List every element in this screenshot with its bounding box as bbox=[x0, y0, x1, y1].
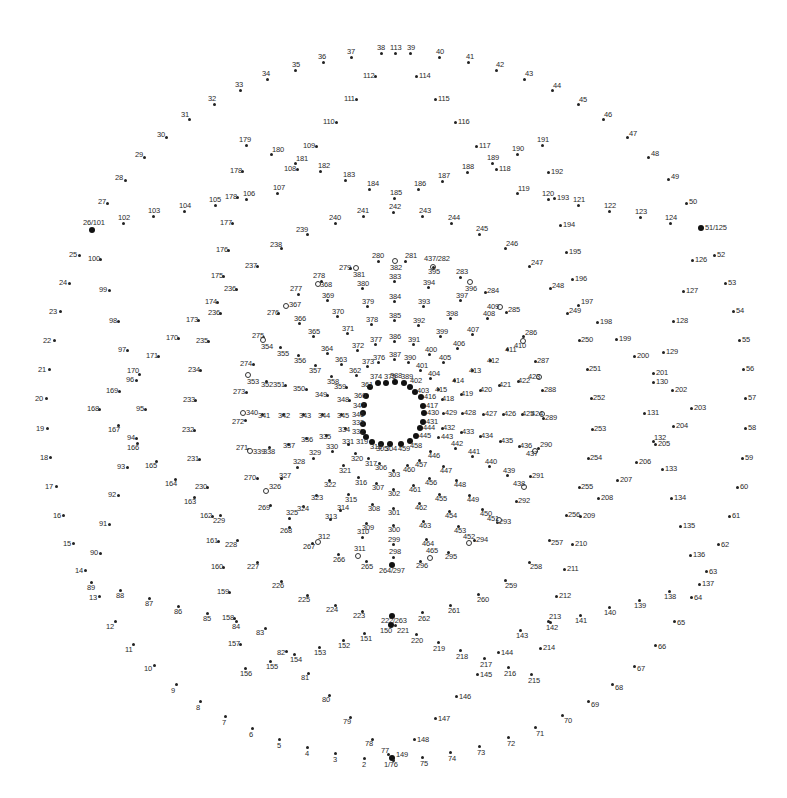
point-number-label: 365 bbox=[308, 328, 320, 336]
point-number-label: 17 bbox=[45, 483, 53, 491]
point-number-label: 337 bbox=[283, 442, 295, 450]
point-number-label: 157 bbox=[228, 640, 240, 648]
point-number-label: 110 bbox=[323, 118, 334, 126]
point-number-label: 37 bbox=[347, 48, 355, 56]
point-number-label: 158 bbox=[222, 614, 234, 622]
point-number-label: 99 bbox=[99, 286, 107, 294]
point-number-label: 170 bbox=[166, 334, 178, 342]
point-number-label: 437 bbox=[526, 450, 538, 458]
point-number-label: 5 bbox=[277, 742, 281, 750]
point-number-label: 177 bbox=[220, 219, 232, 227]
point-number-label: 92 bbox=[108, 491, 116, 499]
point-number-label: 307 bbox=[372, 484, 384, 492]
point-number-label: 359 bbox=[334, 383, 346, 391]
point-number-label: 146 bbox=[459, 693, 471, 701]
point-number-label: 184 bbox=[367, 180, 379, 188]
point-number-label: 303 bbox=[388, 471, 400, 479]
dot-icon bbox=[690, 407, 693, 410]
point-number-label: 420 bbox=[480, 386, 492, 394]
dot-icon bbox=[45, 397, 48, 400]
point-number-label: 319 bbox=[356, 438, 368, 446]
point-number-label: 343 bbox=[299, 412, 311, 420]
point-number-label: 423 bbox=[528, 373, 540, 381]
point-number-label: 85 bbox=[203, 615, 211, 623]
point-number-label: 380 bbox=[357, 280, 369, 288]
point-number-label: 10 bbox=[144, 665, 152, 673]
point-number-label: 416 bbox=[424, 393, 436, 401]
point-number-label: 204 bbox=[676, 422, 688, 430]
point-number-label: 52 bbox=[717, 251, 725, 259]
point-number-label: 175 bbox=[211, 272, 223, 280]
point-number-label: 295 bbox=[445, 553, 457, 561]
point-number-label: 296 bbox=[416, 562, 428, 570]
point-number-label: 73 bbox=[477, 749, 485, 757]
point-number-label: 341 bbox=[258, 412, 270, 420]
point-number-label: 115 bbox=[438, 95, 449, 103]
point-number-label: 273 bbox=[233, 388, 245, 396]
point-number-label: 412 bbox=[487, 357, 499, 365]
point-number-label: 342 bbox=[278, 412, 290, 420]
point-number-label: 186 bbox=[414, 180, 426, 188]
dot-icon bbox=[633, 665, 636, 668]
point-number-label: 433 bbox=[462, 428, 474, 436]
point-number-label: 213 bbox=[549, 613, 561, 621]
point-number-label: 382 bbox=[390, 264, 402, 272]
point-number-label: 164 bbox=[165, 480, 177, 488]
point-number-label: 231 bbox=[187, 455, 199, 463]
point-number-label: 234 bbox=[188, 366, 200, 374]
point-number-label: 55 bbox=[742, 336, 750, 344]
point-number-label: 51/125 bbox=[705, 224, 727, 232]
point-number-label: 454 bbox=[445, 512, 457, 520]
point-number-label: 192 bbox=[551, 168, 563, 176]
point-number-label: 191 bbox=[537, 136, 549, 144]
dot-icon bbox=[671, 389, 674, 392]
point-number-label: 446 bbox=[428, 452, 440, 460]
point-number-label: 326 bbox=[269, 483, 281, 491]
point-number-label: 345 bbox=[337, 412, 349, 420]
dot-icon bbox=[587, 700, 590, 703]
dot-icon bbox=[661, 468, 664, 471]
point-number-label: 163 bbox=[184, 498, 196, 506]
point-number-label: 209 bbox=[583, 512, 595, 520]
point-number-label: 137 bbox=[702, 580, 714, 588]
point-number-label: 218 bbox=[456, 653, 468, 661]
point-number-label: 45 bbox=[579, 96, 587, 104]
point-number-label: 367 bbox=[289, 301, 301, 309]
point-number-label: 159 bbox=[217, 588, 229, 596]
point-number-label: 215 bbox=[528, 677, 540, 685]
point-number-label: 329 bbox=[309, 449, 321, 457]
dot-icon bbox=[736, 486, 739, 489]
point-number-label: 366 bbox=[294, 315, 306, 323]
point-number-label: 302 bbox=[388, 490, 400, 498]
point-number-label: 376 bbox=[373, 354, 385, 362]
point-number-label: 378 bbox=[366, 316, 378, 324]
point-number-label: 65 bbox=[677, 619, 685, 627]
dot-icon bbox=[392, 759, 395, 762]
point-number-label: 108 bbox=[284, 165, 296, 173]
point-number-label: 368 bbox=[320, 281, 332, 289]
point-number-label: 34 bbox=[262, 70, 270, 78]
point-number-label: 15 bbox=[63, 540, 71, 548]
point-number-label: 226 bbox=[272, 582, 284, 590]
point-number-label: 224 bbox=[326, 606, 338, 614]
point-number-label: 98 bbox=[109, 317, 117, 325]
dot-icon bbox=[670, 497, 673, 500]
point-number-label: 162 bbox=[200, 512, 212, 520]
point-number-label: 356 bbox=[294, 357, 306, 365]
point-number-label: 26/101 bbox=[83, 219, 105, 227]
point-number-label: 272 bbox=[232, 418, 244, 426]
point-number-label: 429 bbox=[445, 409, 457, 417]
point-number-label: 88 bbox=[116, 592, 124, 600]
dot-icon bbox=[682, 290, 685, 293]
point-number-label: 401 bbox=[416, 362, 428, 370]
point-number-label: 82 bbox=[277, 649, 285, 657]
point-number-label: 447 bbox=[440, 467, 452, 475]
point-number-label: 104 bbox=[179, 202, 191, 210]
point-number-label: 314 bbox=[337, 504, 349, 512]
point-number-label: 47 bbox=[629, 130, 637, 138]
point-number-label: 170 bbox=[127, 367, 139, 375]
dot-icon bbox=[679, 525, 682, 528]
point-number-label: 413 bbox=[469, 367, 481, 375]
point-number-label: 323 bbox=[311, 494, 323, 502]
dot-icon bbox=[126, 466, 129, 469]
